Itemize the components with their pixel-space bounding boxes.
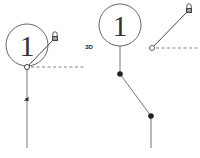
right-balloon-group: 3D 1 — [85, 4, 200, 148]
right-filled-node-2[interactable] — [148, 113, 154, 119]
left-lock-icon[interactable] — [52, 32, 58, 41]
left-balloon-number: 1 — [20, 29, 35, 62]
right-filled-node-1[interactable] — [117, 71, 123, 77]
right-leader-line — [120, 46, 151, 148]
right-open-node[interactable] — [150, 46, 155, 51]
right-connector-line — [152, 11, 188, 48]
right-balloon-number: 1 — [113, 9, 128, 42]
right-lock-icon[interactable] — [186, 4, 192, 13]
left-anchor-node[interactable] — [25, 65, 30, 70]
left-balloon-group: 1 — [6, 24, 84, 148]
view-3d-label: 3D — [85, 44, 93, 50]
balloon-diagram-canvas: 1 3D 1 — [0, 0, 200, 158]
